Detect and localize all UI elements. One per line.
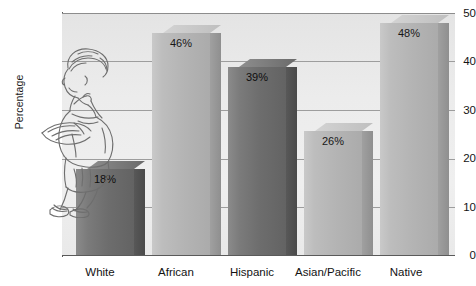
bar-asian-pacific[interactable]: 26% <box>304 131 362 256</box>
category-label-african: African <box>138 266 214 278</box>
bar-white[interactable]: 18% <box>76 169 134 256</box>
bar-native-side <box>438 23 449 256</box>
category-label-native: Native <box>368 266 444 278</box>
plot-area: 18% 46% 39% 26% 48% <box>62 13 455 256</box>
bar-hispanic-face <box>228 67 286 256</box>
bar-hispanic-value: 39% <box>228 71 286 83</box>
bar-white-value: 18% <box>76 173 134 185</box>
y-axis-title: Percentage <box>13 47 25 157</box>
bar-asian-pacific-value: 26% <box>304 135 362 147</box>
bar-african-face <box>152 33 210 256</box>
bar-native[interactable]: 48% <box>380 23 438 256</box>
bar-chart: Percentage 50 40 30 20 10 0 18% 46% <box>0 0 476 286</box>
bar-native-value: 48% <box>380 27 438 39</box>
category-label-white: White <box>62 266 138 278</box>
bar-hispanic-side <box>286 67 297 256</box>
bar-asian-pacific-face <box>304 131 362 256</box>
bar-white-side <box>134 169 145 256</box>
bar-african[interactable]: 46% <box>152 33 210 256</box>
gridline-50 <box>62 13 455 14</box>
category-label-hispanic: Hispanic <box>214 266 290 278</box>
bar-hispanic[interactable]: 39% <box>228 67 286 256</box>
category-label-asian-pacific: Asian/Pacific <box>287 266 369 278</box>
bar-african-value: 46% <box>152 37 210 49</box>
bar-asian-pacific-side <box>362 131 373 256</box>
bar-native-face <box>380 23 438 256</box>
bar-african-side <box>210 33 221 256</box>
